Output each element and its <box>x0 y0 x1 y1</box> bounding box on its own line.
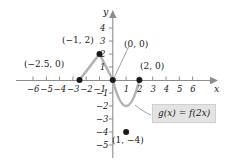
y-tick-label-neg2: −2 <box>96 102 109 111</box>
equation-callout-box: g(x) = f(2x) <box>152 104 216 123</box>
point-label-2-0: (2, 0) <box>140 62 164 71</box>
x-tick-label-neg3: −3 <box>67 85 80 94</box>
point-0-0 <box>110 77 116 83</box>
point-label-neg1-2: (−1, 2) <box>62 36 94 45</box>
y-tick-label-1: 1 <box>100 63 105 72</box>
x-tick-label-neg6: −6 <box>27 85 40 94</box>
x-axis-label: x <box>214 84 219 94</box>
x-tick-label-4: 4 <box>164 85 169 94</box>
y-tick-label-neg4: −4 <box>96 128 109 137</box>
x-tick-label-3: 3 <box>150 85 155 94</box>
point-label-neg2p5-0: (−2.5, 0) <box>24 60 64 69</box>
y-tick-label-neg3: −3 <box>96 115 109 124</box>
point-2-0 <box>136 77 142 83</box>
x-tick-label-6: 6 <box>190 85 195 94</box>
point-label-0-0: (0, 0) <box>124 40 148 49</box>
x-tick-label-neg2: −2 <box>80 85 93 94</box>
x-tick-label-neg5: −5 <box>40 85 53 94</box>
graph-figure: −6 −5 −4 −3 −2 −1 1 2 3 4 5 6 4 3 2 1 −1… <box>0 0 226 163</box>
x-tick-label-5: 5 <box>177 85 182 94</box>
curve-tent-segment <box>80 54 113 80</box>
x-tick-label-neg4: −4 <box>54 85 67 94</box>
y-tick-label-3: 3 <box>100 37 105 46</box>
x-tick-label-1: 1 <box>124 85 129 94</box>
point-label-1-neg4: (1, −4) <box>112 136 144 145</box>
point-neg2p5-0 <box>77 77 83 83</box>
y-axis-label: y <box>103 7 108 17</box>
x-tick-label-2: 2 <box>137 85 142 94</box>
y-tick-label-neg1: −1 <box>96 89 109 98</box>
y-tick-label-2: 2 <box>100 50 105 59</box>
y-tick-label-4: 4 <box>100 24 105 33</box>
y-tick-label-neg5: −5 <box>96 141 109 150</box>
leader-line-equation <box>135 105 151 115</box>
leader-line-origin <box>115 46 130 77</box>
